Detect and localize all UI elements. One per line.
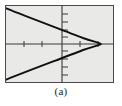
figure-panel: (a) [0,0,122,106]
figure-caption: (a) [0,85,122,98]
graph-plot-area [5,5,114,83]
parabola-graph [5,5,114,83]
